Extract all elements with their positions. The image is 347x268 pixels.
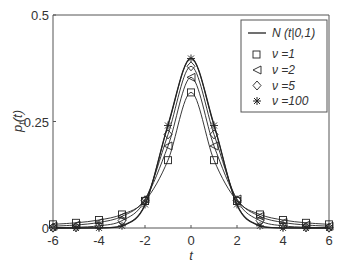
svg-text:pt(t): pt(t) xyxy=(10,110,27,133)
x-tick-label: 6 xyxy=(325,233,332,248)
star-marker xyxy=(233,200,241,208)
legend: N (t|0,1) ν =1 ν =2 ν =5 ν =100 xyxy=(241,20,327,112)
legend-nu5: ν =5 xyxy=(272,79,295,93)
star-marker xyxy=(164,122,172,130)
star-marker xyxy=(118,222,126,230)
legend-nu1: ν =1 xyxy=(272,47,295,61)
x-tick-label: 0 xyxy=(187,233,194,248)
x-tick-label: -2 xyxy=(139,233,151,248)
student-t-chart: -6-4-20246 00.250.5 t pt(t) N (t|0,1) ν … xyxy=(0,0,347,268)
y-tick-label: 0.5 xyxy=(31,8,49,23)
legend-nu100: ν =100 xyxy=(272,94,309,108)
y-tick-label: 0 xyxy=(42,221,49,236)
x-tick-label: 4 xyxy=(279,233,286,248)
y-axis-label: pt(t) xyxy=(10,110,27,133)
star-marker xyxy=(187,54,195,62)
y-tick-label: 0.25 xyxy=(24,115,49,130)
x-axis-label: t xyxy=(189,248,194,263)
star-marker xyxy=(210,122,218,130)
star-marker xyxy=(256,222,264,230)
x-tick-label: 2 xyxy=(233,233,240,248)
legend-star-icon xyxy=(253,97,261,105)
star-marker xyxy=(302,224,310,232)
star-marker xyxy=(141,200,149,208)
legend-nu2: ν =2 xyxy=(272,63,295,77)
star-marker xyxy=(72,224,80,232)
x-tick-label: -4 xyxy=(93,233,105,248)
legend-normal: N (t|0,1) xyxy=(272,26,315,40)
y-axis-ticks: 00.250.5 xyxy=(24,8,56,236)
